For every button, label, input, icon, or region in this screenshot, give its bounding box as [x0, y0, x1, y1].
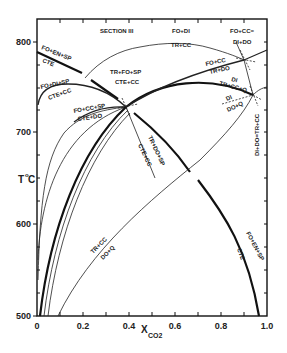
label-fo-cc-eq: FO+CC=: [230, 28, 255, 34]
curve-fo-en-sp-cte-mid: [91, 80, 118, 99]
label-di-do-tr-cc: DI+DO=TR+CC: [254, 113, 260, 156]
y-tick-700: 700: [16, 127, 31, 137]
x-axis-title: X CO2: [141, 324, 163, 339]
label-cte-right: CTE: [236, 247, 246, 260]
label-di-small: DI: [225, 94, 233, 102]
curve-fo-cc-tr-do: [126, 50, 267, 107]
y-tick-500: 500: [16, 311, 31, 321]
y-axis-title: T o C: [18, 172, 35, 185]
label-fo-en-sp-right: FO+EN+SP: [245, 231, 265, 262]
y-tick-600: 600: [16, 219, 31, 229]
label-cte-cc-mid: CTE+CC: [115, 79, 140, 85]
phase-diagram: 800 700 600 500 T o C 0 0.2 0.4 0.6 0.8 …: [0, 0, 287, 353]
curve-main-double-2: [48, 113, 130, 316]
label-tr-fo-sp: TR+FO+SP: [110, 69, 141, 75]
svg-text:X: X: [141, 324, 148, 335]
label-tr-do: TR+DO: [209, 65, 231, 75]
label-cte-cc-diag: CTE+CC: [137, 143, 153, 168]
svg-text:CO2: CO2: [148, 332, 163, 339]
label-cte-cc-left: CTE+CC: [47, 87, 72, 101]
curve-fo-en-sp-cte-right: [198, 180, 259, 316]
x-tick-0.8: 0.8: [215, 321, 228, 331]
label-fo-di: FO+DI: [172, 28, 190, 34]
svg-text:T: T: [18, 174, 24, 185]
x-tick-0.6: 0.6: [169, 321, 182, 331]
curve-tr-cc-do-q: [58, 95, 253, 316]
curve-main-double: [44, 110, 128, 316]
x-tick-0.2: 0.2: [77, 321, 90, 331]
label-tr-cc-top: TR+CC: [171, 42, 192, 48]
label-di-do: DI+DO: [233, 39, 252, 45]
curve-tr-fo-sp: [38, 107, 126, 260]
x-tick-0.4: 0.4: [123, 321, 136, 331]
label-do-q-small: DO+Q: [226, 100, 244, 113]
x-tick-0: 0: [34, 321, 39, 331]
label-do-q-low: DO+Q: [99, 244, 116, 261]
section-title: SECTION III: [100, 28, 134, 34]
curve-main-thick: [40, 83, 253, 316]
svg-text:C: C: [28, 174, 35, 185]
x-tick-1.0: 1.0: [261, 321, 274, 331]
y-tick-800: 800: [16, 37, 31, 47]
